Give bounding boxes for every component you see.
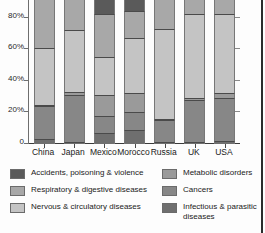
- bar-segment[interactable]: [94, 14, 115, 57]
- bar-segment[interactable]: [184, 14, 205, 98]
- stacked-bar[interactable]: [64, 0, 85, 144]
- legend-column-right: Metabolic disordersCancersInfectious & p…: [162, 168, 257, 227]
- x-axis-label-usa: USA: [200, 147, 248, 158]
- bar-segment[interactable]: [34, 0, 55, 48]
- bar-segment[interactable]: [214, 98, 235, 141]
- legend-item[interactable]: Cancers: [162, 185, 257, 196]
- bar-segment[interactable]: [154, 29, 175, 119]
- legend-swatch-icon: [10, 203, 25, 213]
- legend-column-left: Accidents, poisoning & violenceRespirato…: [10, 168, 155, 219]
- legend-item[interactable]: Metabolic disorders: [162, 168, 257, 179]
- stacked-bar[interactable]: [94, 0, 115, 144]
- bar-segment[interactable]: [124, 93, 145, 112]
- legend-label: Metabolic disorders: [183, 168, 252, 178]
- legend-label: Infectious & parasitic diseases: [183, 202, 257, 221]
- bar-segment[interactable]: [64, 92, 85, 95]
- stacked-bar[interactable]: [214, 0, 235, 144]
- bar-segment[interactable]: [124, 11, 145, 38]
- stacked-bar[interactable]: [154, 0, 175, 144]
- bar-segment[interactable]: [214, 93, 235, 98]
- bar-group[interactable]: [124, 0, 145, 144]
- bar-group[interactable]: [94, 0, 115, 144]
- legend-label: Nervous & circulatory diseases: [31, 202, 141, 212]
- legend-swatch-icon: [162, 203, 177, 213]
- bar-group[interactable]: [214, 0, 235, 144]
- bar-segment[interactable]: [34, 105, 55, 107]
- bar-segment[interactable]: [64, 0, 85, 30]
- y-tick-label: 40%: [8, 74, 24, 83]
- chart-legend: Accidents, poisoning & violenceRespirato…: [10, 168, 255, 228]
- bar-segment[interactable]: [124, 0, 145, 11]
- bar-segment[interactable]: [124, 112, 145, 129]
- chart-page: 80%60%40%20%0 ChinaJapanMexicoMoroccoRus…: [0, 0, 265, 233]
- bar-segment[interactable]: [154, 120, 175, 142]
- bar-segment[interactable]: [94, 133, 115, 144]
- legend-label: Accidents, poisoning & violence: [31, 168, 144, 178]
- legend-swatch-icon: [162, 169, 177, 179]
- bar-segment[interactable]: [124, 130, 145, 144]
- bar-segment[interactable]: [94, 57, 115, 95]
- bar-segment[interactable]: [184, 0, 205, 14]
- y-tick-label: 20%: [8, 105, 24, 114]
- y-tick-label: 60%: [8, 42, 24, 51]
- legend-item[interactable]: Infectious & parasitic diseases: [162, 202, 257, 221]
- bar-segment[interactable]: [124, 38, 145, 93]
- legend-label: Cancers: [183, 185, 213, 195]
- bar-segment[interactable]: [94, 0, 115, 14]
- bar-segment[interactable]: [94, 116, 115, 133]
- bar-segment[interactable]: [154, 119, 175, 121]
- plot-area: 80%60%40%20%0: [28, 0, 240, 144]
- bar-segment[interactable]: [154, 0, 175, 29]
- bar-segment[interactable]: [184, 98, 205, 100]
- bar-group[interactable]: [34, 0, 55, 144]
- bar-group[interactable]: [154, 0, 175, 144]
- legend-item[interactable]: Accidents, poisoning & violence: [10, 168, 155, 179]
- bar-segment[interactable]: [214, 0, 235, 14]
- legend-item[interactable]: Respiratory & digestive diseases: [10, 185, 155, 196]
- y-tick-label: 80%: [8, 11, 24, 20]
- bar-segment[interactable]: [64, 95, 85, 142]
- bar-group[interactable]: [184, 0, 205, 144]
- bar-series-container: [29, 0, 240, 144]
- bar-segment[interactable]: [214, 14, 235, 93]
- legend-swatch-icon: [10, 186, 25, 196]
- bar-segment[interactable]: [94, 95, 115, 116]
- bar-segment[interactable]: [34, 106, 55, 139]
- stacked-bar[interactable]: [184, 0, 205, 144]
- legend-swatch-icon: [10, 169, 25, 179]
- stacked-bar[interactable]: [124, 0, 145, 144]
- bar-segment[interactable]: [64, 30, 85, 92]
- stacked-bar[interactable]: [34, 0, 55, 144]
- x-axis-labels: ChinaJapanMexicoMoroccoRussiaUKUSA: [28, 147, 240, 161]
- legend-item[interactable]: Nervous & circulatory diseases: [10, 202, 155, 213]
- bar-segment[interactable]: [34, 48, 55, 105]
- legend-label: Respiratory & digestive diseases: [31, 185, 147, 195]
- bar-group[interactable]: [64, 0, 85, 144]
- y-tick-label: 0: [20, 137, 24, 146]
- page-frame-rule: [261, 0, 263, 233]
- bar-segment[interactable]: [184, 100, 205, 143]
- legend-swatch-icon: [162, 186, 177, 196]
